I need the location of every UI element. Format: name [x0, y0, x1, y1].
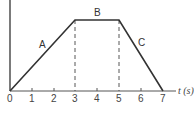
tick-label-2: 2: [51, 93, 57, 104]
tick-label-3: 3: [72, 93, 78, 104]
segment-label-c: C: [138, 37, 145, 48]
tick-label-1: 1: [29, 93, 35, 104]
x-axis-label: t (s): [178, 85, 194, 97]
tick-label-5: 5: [116, 93, 122, 104]
segment-label-b: B: [94, 7, 101, 18]
segment-label-a: A: [39, 39, 46, 50]
tick-label-0: 0: [7, 93, 13, 104]
tick-label-4: 4: [94, 93, 100, 104]
tick-label-6: 6: [138, 93, 144, 104]
trapezoid-graph: A B C 0 1 2 3 4 5 6 7 t (s): [0, 0, 194, 114]
tick-label-7: 7: [160, 93, 166, 104]
data-line: [10, 20, 163, 91]
